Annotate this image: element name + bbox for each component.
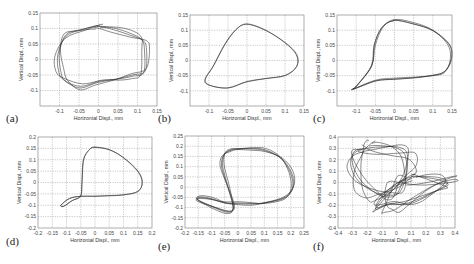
y-tick-label: -0.05 bbox=[25, 191, 37, 197]
x-tick-label: -0.1 bbox=[205, 108, 214, 114]
panel-label: (f) bbox=[313, 240, 324, 253]
x-tick-label: 0.2 bbox=[422, 230, 429, 236]
x-tick-label: -0.15 bbox=[47, 230, 59, 236]
y-tick-label: -0.1 bbox=[326, 88, 335, 94]
panel-label: (b) bbox=[158, 112, 171, 125]
y-tick-label: -0.1 bbox=[27, 202, 36, 208]
y-tick-label: 0.1 bbox=[176, 163, 183, 169]
y-tick-label: 0.15 bbox=[178, 12, 188, 18]
y-tick-label: 0.4 bbox=[329, 134, 336, 140]
subplot-f: -0.4-0.3-0.2-0.100.10.20.30.4-0.4-0.3-0.… bbox=[313, 134, 459, 253]
x-tick-label: 0.2 bbox=[287, 230, 294, 236]
x-axis-label: Horizontal Displ., mm bbox=[372, 237, 421, 243]
x-tick-label: -0.3 bbox=[348, 230, 357, 236]
x-tick-label: 0.15 bbox=[133, 230, 143, 236]
y-tick-label: -0.2 bbox=[27, 225, 36, 231]
y-tick-label: -0.05 bbox=[324, 72, 336, 78]
y-tick-label: 0.1 bbox=[329, 168, 336, 174]
y-tick-label: 0.1 bbox=[31, 25, 38, 31]
y-tick-label: 0.1 bbox=[29, 157, 36, 163]
y-tick-label: -0.15 bbox=[25, 213, 37, 219]
x-tick-label: -0.05 bbox=[370, 108, 382, 114]
x-tick-label: 0 bbox=[395, 230, 398, 236]
x-axis-label: Horizontal Displ., mm bbox=[370, 115, 419, 121]
y-tick-label: -0.2 bbox=[327, 202, 336, 208]
y-tick-label: 0 bbox=[333, 179, 336, 185]
y-tick-label: 0 bbox=[35, 56, 38, 62]
y-tick-label: 0.25 bbox=[173, 133, 183, 139]
y-tick-label: -0.3 bbox=[327, 213, 336, 219]
x-tick-label: -0.1 bbox=[378, 230, 387, 236]
y-axis-label: Vertical Displ., mm bbox=[16, 161, 22, 204]
y-tick-label: 0.05 bbox=[325, 42, 335, 48]
subplot-e: -0.2-0.15-0.1-0.0500.050.10.150.20.25-0.… bbox=[158, 133, 309, 253]
y-tick-label: 0.2 bbox=[29, 134, 36, 140]
x-tick-label: 0 bbox=[393, 108, 396, 114]
y-tick-label: 0 bbox=[33, 179, 36, 185]
x-tick-label: -0.05 bbox=[219, 230, 231, 236]
x-tick-label: 0 bbox=[246, 108, 249, 114]
y-tick-label: -0.05 bbox=[172, 194, 184, 200]
y-tick-label: 0.2 bbox=[176, 143, 183, 149]
y-tick-label: 0.15 bbox=[173, 153, 183, 159]
subplot-d: -0.2-0.15-0.1-0.0500.050.10.150.2-0.2-0.… bbox=[6, 134, 156, 248]
y-tick-label: 0 bbox=[180, 184, 183, 190]
x-tick-label: -0.05 bbox=[73, 108, 85, 114]
y-tick-label: 0.1 bbox=[328, 27, 335, 33]
x-tick-label: -0.2 bbox=[363, 230, 372, 236]
x-axis-label: Horizontal Displ., mm bbox=[222, 115, 271, 121]
x-tick-label: 0.25 bbox=[299, 230, 309, 236]
x-tick-label: 0.1 bbox=[282, 108, 289, 114]
x-tick-label: 0 bbox=[94, 230, 97, 236]
y-tick-label: -0.1 bbox=[327, 191, 336, 197]
x-tick-label: -0.05 bbox=[75, 230, 87, 236]
panel-label: (a) bbox=[6, 112, 19, 125]
y-tick-label: -0.05 bbox=[177, 72, 189, 78]
subplot-c: -0.1-0.0500.050.10.15-0.1-0.0500.050.10.… bbox=[313, 12, 457, 125]
y-tick-label: 0 bbox=[185, 57, 188, 63]
y-tick-label: 0.05 bbox=[173, 174, 183, 180]
y-tick-label: 0.15 bbox=[26, 145, 36, 151]
x-tick-label: 0.1 bbox=[408, 230, 415, 236]
y-tick-label: 0.15 bbox=[325, 12, 335, 18]
panel-label: (e) bbox=[158, 240, 171, 253]
x-tick-label: 0.05 bbox=[113, 108, 123, 114]
x-tick-label: -0.05 bbox=[222, 108, 234, 114]
x-axis-label: Horizontal Displ., mm bbox=[70, 237, 119, 243]
y-tick-label: 0.05 bbox=[178, 42, 188, 48]
x-tick-label: 0.05 bbox=[409, 108, 419, 114]
x-axis-label: Horizontal Displ., mm bbox=[74, 115, 123, 121]
subplot-a: -0.1-0.0500.050.10.15-0.1-0.0500.050.10.… bbox=[6, 10, 162, 125]
x-tick-label: -0.1 bbox=[207, 230, 216, 236]
y-tick-label: 0.15 bbox=[28, 10, 38, 16]
y-tick-label: 0.3 bbox=[329, 145, 336, 151]
x-tick-label: 0.05 bbox=[246, 230, 256, 236]
y-tick-label: -0.2 bbox=[174, 225, 183, 231]
y-tick-label: -0.4 bbox=[327, 225, 336, 231]
x-tick-label: 0.2 bbox=[149, 230, 156, 236]
y-tick-label: -0.15 bbox=[172, 215, 184, 221]
x-tick-label: 0 bbox=[97, 108, 100, 114]
y-tick-label: -0.05 bbox=[27, 72, 39, 78]
x-axis-label: Horizontal Displ., mm bbox=[220, 237, 269, 243]
y-axis-label: Vertical Displ., mm bbox=[316, 161, 322, 204]
y-tick-label: 0.05 bbox=[26, 168, 36, 174]
panel-label: (c) bbox=[313, 112, 326, 125]
x-tick-label: -0.15 bbox=[193, 230, 205, 236]
x-tick-label: 0 bbox=[236, 230, 239, 236]
y-tick-label: -0.1 bbox=[174, 204, 183, 210]
figure-canvas: -0.1-0.0500.050.10.15-0.1-0.0500.050.10.… bbox=[0, 0, 474, 264]
x-tick-label: -0.1 bbox=[55, 108, 64, 114]
y-axis-label: Vertical Displ., mm bbox=[315, 39, 321, 82]
x-tick-label: 0.15 bbox=[299, 108, 309, 114]
y-axis-label: Vertical Displ., mm bbox=[18, 38, 24, 81]
x-tick-label: 0.05 bbox=[104, 230, 114, 236]
x-tick-label: 0.1 bbox=[120, 230, 127, 236]
x-tick-label: 0.1 bbox=[134, 108, 141, 114]
y-tick-label: 0.05 bbox=[28, 41, 38, 47]
y-axis-label: Vertical Displ., mm bbox=[168, 39, 174, 82]
x-tick-label: 0.15 bbox=[273, 230, 283, 236]
x-tick-label: 0.1 bbox=[429, 108, 436, 114]
x-tick-label: -0.1 bbox=[352, 108, 361, 114]
x-tick-label: 0.05 bbox=[261, 108, 271, 114]
